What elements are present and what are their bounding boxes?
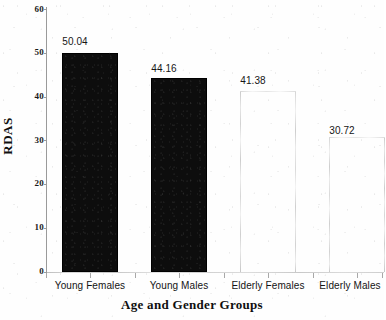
plot-area bbox=[46, 9, 384, 272]
y-axis-title: RDAS bbox=[0, 106, 16, 166]
y-tick-mark-50 bbox=[44, 53, 47, 54]
bar-value-elderly-females: 41.38 bbox=[218, 76, 288, 86]
y-tick-label-60: 60 bbox=[4, 5, 44, 14]
bar-edge-top bbox=[329, 137, 385, 138]
bar-value-elderly-males: 30.72 bbox=[307, 126, 377, 136]
bar-edge-right bbox=[295, 91, 296, 272]
x-category-label-young-females: Young Females bbox=[50, 280, 130, 291]
bar-edge-left bbox=[240, 91, 241, 272]
y-tick-label-50: 50 bbox=[4, 48, 44, 57]
bar-edge-top bbox=[240, 91, 296, 92]
x-category-label-elderly-males: Elderly Males bbox=[314, 280, 386, 291]
x-tick-mark-boundary-3 bbox=[313, 273, 314, 278]
x-tick-mark-boundary-2 bbox=[224, 273, 225, 278]
x-category-label-young-males: Young Males bbox=[139, 280, 219, 291]
bar-elderly-males bbox=[329, 137, 385, 272]
x-tick-mark-boundary-1 bbox=[135, 273, 136, 278]
y-tick-mark-20 bbox=[44, 184, 47, 185]
x-tick-mark-young-males bbox=[179, 273, 180, 278]
x-tick-mark-elderly-males bbox=[357, 273, 358, 278]
y-tick-mark-30 bbox=[44, 140, 47, 141]
x-category-label-elderly-females: Elderly Females bbox=[226, 280, 310, 291]
x-tick-mark-boundary-0 bbox=[46, 273, 47, 278]
y-tick-mark-40 bbox=[44, 97, 47, 98]
x-tick-mark-young-females bbox=[90, 273, 91, 278]
y-tick-label-10: 10 bbox=[4, 223, 44, 232]
x-axis-title: Age and Gender Groups bbox=[0, 297, 384, 313]
x-axis-line bbox=[46, 272, 384, 273]
y-tick-label-40: 40 bbox=[4, 92, 44, 101]
y-tick-label-0: 0 bbox=[4, 267, 44, 276]
bar-value-young-females: 50.04 bbox=[40, 37, 110, 47]
x-tick-mark-elderly-females bbox=[268, 273, 269, 278]
y-tick-mark-10 bbox=[44, 228, 47, 229]
y-tick-mark-60 bbox=[44, 9, 47, 10]
bar-edge-left bbox=[329, 137, 330, 272]
y-tick-label-20: 20 bbox=[4, 179, 44, 188]
bar-young-females bbox=[62, 53, 118, 272]
bar-young-males bbox=[151, 78, 207, 272]
bar-edge-right bbox=[384, 137, 385, 272]
bar-elderly-females bbox=[240, 91, 296, 272]
bar-value-young-males: 44.16 bbox=[129, 64, 199, 74]
x-tick-mark-boundary-4 bbox=[382, 273, 383, 278]
